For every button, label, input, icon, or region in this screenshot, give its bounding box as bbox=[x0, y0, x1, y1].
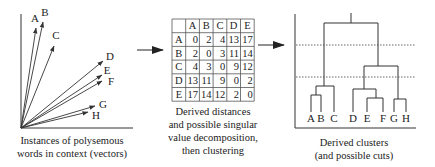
matrix-cell: 2 bbox=[206, 34, 211, 45]
vector-label-c: C bbox=[52, 29, 59, 41]
leaf-label-c: C bbox=[330, 112, 337, 124]
dendrogram-ab-link bbox=[311, 95, 321, 112]
matrix-cell: 9 bbox=[220, 75, 225, 86]
matrix-cell: 9 bbox=[234, 61, 239, 72]
leaf-label-b: B bbox=[317, 112, 324, 124]
dendrogram-panel: ABCDEFGH Derived clusters (and possible … bbox=[295, 13, 416, 162]
leaf-label-a: A bbox=[307, 112, 315, 124]
pipeline-diagram: ABCDEFGH Instances of polysemous words i… bbox=[0, 0, 435, 167]
vector-a bbox=[21, 28, 36, 128]
matrix-row-header: E bbox=[176, 89, 182, 100]
matrix-cell: 12 bbox=[242, 61, 253, 72]
matrix-cell: 2 bbox=[234, 89, 239, 100]
matrix-column-header: A bbox=[189, 20, 197, 31]
vector-c bbox=[21, 46, 54, 128]
dendrogram-caption-line-2: (and possible cuts) bbox=[315, 150, 394, 162]
matrix-column-header: E bbox=[244, 20, 250, 31]
matrix-cell: 13 bbox=[187, 75, 198, 86]
matrix-cell: 2 bbox=[193, 48, 198, 59]
matrix-cell: 2 bbox=[247, 75, 252, 86]
matrix-cell: 0 bbox=[234, 75, 239, 86]
leaf-label-h: H bbox=[402, 112, 410, 124]
vector-label-b: B bbox=[41, 6, 48, 18]
matrix-cell: 13 bbox=[229, 34, 240, 45]
dendrogram-ef-link bbox=[367, 98, 383, 112]
vectors-caption-line-2: words in context (vectors) bbox=[17, 148, 127, 160]
matrix-cell: 3 bbox=[220, 48, 225, 59]
dendrogram-caption-line-1: Derived clusters bbox=[320, 137, 389, 148]
matrix-cell: 0 bbox=[247, 89, 252, 100]
vector-label-f: F bbox=[108, 75, 114, 87]
vector-b bbox=[21, 22, 43, 128]
matrix-cell: 17 bbox=[242, 34, 253, 45]
vector-label-h: H bbox=[92, 109, 100, 121]
dendrogram-def-link bbox=[353, 89, 376, 112]
vectors-caption-line-1: Instances of polysemous bbox=[20, 135, 123, 146]
vector-label-g: G bbox=[99, 98, 107, 110]
distance-matrix-table: ABCDEA0241317B2031114C430912D1311902E171… bbox=[172, 19, 254, 101]
matrix-column-header: B bbox=[203, 20, 210, 31]
matrix-row-header: A bbox=[175, 34, 183, 45]
matrix-row-header: B bbox=[175, 48, 182, 59]
leaf-label-f: F bbox=[380, 112, 386, 124]
matrix-cell: 17 bbox=[187, 89, 198, 100]
vector-label-a: A bbox=[31, 12, 39, 24]
matrix-column-header: C bbox=[216, 20, 223, 31]
matrix-row-header: D bbox=[175, 75, 183, 86]
matrix-caption-line-1: Derived distances bbox=[176, 106, 251, 117]
matrix-cell: 11 bbox=[201, 75, 211, 86]
vector-e bbox=[21, 75, 102, 128]
vector-g bbox=[21, 106, 95, 128]
matrix-row-header: C bbox=[175, 61, 182, 72]
matrix-cell: 3 bbox=[206, 61, 211, 72]
matrix-cell: 4 bbox=[193, 61, 199, 72]
dendrogram-defgh-link bbox=[364, 66, 398, 99]
leaf-label-g: G bbox=[390, 112, 398, 124]
leaf-label-e: E bbox=[364, 112, 371, 124]
matrix-panel: ABCDEA0241317B2031114C430912D1311902E171… bbox=[168, 19, 258, 156]
leaf-label-d: D bbox=[349, 112, 357, 124]
matrix-cell: 0 bbox=[193, 34, 198, 45]
matrix-cell: 14 bbox=[201, 89, 212, 100]
dendrogram-gh-link bbox=[394, 99, 406, 112]
vector-label-d: D bbox=[106, 50, 114, 62]
matrix-cell: 14 bbox=[242, 48, 253, 59]
matrix-caption-line-3: value decomposition, bbox=[168, 132, 258, 143]
matrix-cell: 12 bbox=[215, 89, 226, 100]
dendrogram-abc-link bbox=[316, 86, 334, 112]
dendrogram-root-link bbox=[324, 23, 378, 80]
matrix-cell: 0 bbox=[206, 48, 211, 59]
matrix-caption-line-4: then clustering bbox=[182, 145, 245, 156]
matrix-column-header: D bbox=[230, 20, 238, 31]
matrix-caption-line-2: and possible singular bbox=[169, 119, 258, 130]
vector-f bbox=[21, 81, 102, 128]
matrix-cell: 4 bbox=[220, 34, 226, 45]
matrix-cell: 11 bbox=[229, 48, 239, 59]
matrix-cell: 0 bbox=[220, 61, 225, 72]
vectors-panel: ABCDEFGH Instances of polysemous words i… bbox=[17, 6, 133, 160]
